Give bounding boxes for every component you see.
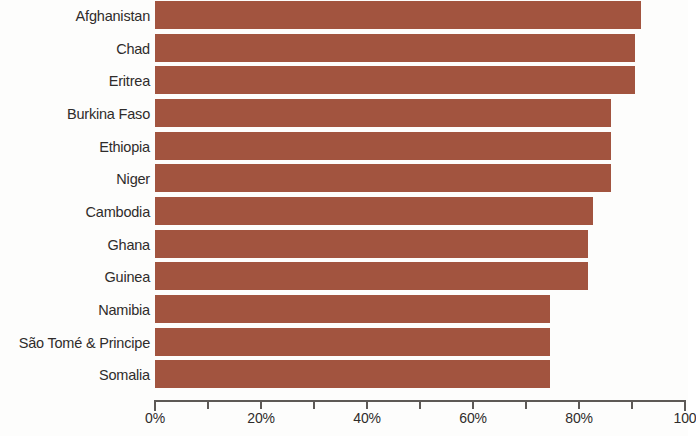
bar [155, 197, 593, 225]
bar-track [155, 164, 611, 192]
bar-row: Namibia [0, 294, 688, 327]
category-label: Eritrea [0, 74, 150, 89]
category-label: Ethiopia [0, 140, 150, 155]
bar-row: Guinea [0, 261, 688, 294]
x-axis-tick [631, 400, 633, 409]
x-axis-tick [260, 400, 262, 409]
x-axis-tick-label: 100 [674, 411, 696, 425]
bar-row: São Tomé & Principe [0, 327, 688, 360]
x-axis-tick-label: 80% [565, 411, 592, 425]
bar [155, 295, 550, 323]
x-axis-tick [525, 400, 527, 409]
bar-row: Cambodia [0, 196, 688, 229]
bar [155, 99, 611, 127]
bar-row: Burkina Faso [0, 98, 688, 131]
bar-row: Niger [0, 163, 688, 196]
bar-track [155, 230, 588, 258]
bar-row: Chad [0, 33, 688, 66]
bar [155, 1, 641, 29]
category-label: Guinea [0, 270, 150, 285]
x-axis-tick [578, 400, 580, 409]
x-axis-tick [207, 400, 209, 409]
bar-row: Eritrea [0, 65, 688, 98]
x-axis-tick-label: 20% [247, 411, 274, 425]
category-label: Afghanistan [0, 9, 150, 24]
bar-track [155, 99, 611, 127]
bar-track [155, 66, 635, 94]
x-axis-tick [419, 400, 421, 409]
x-axis-tick [472, 400, 474, 409]
category-label: Ghana [0, 238, 150, 253]
bar [155, 230, 588, 258]
bar-row: Ghana [0, 229, 688, 262]
x-axis-tick-label: 0% [145, 411, 165, 425]
bar-row: Somalia [0, 359, 688, 392]
bar-track [155, 34, 635, 62]
bar-track [155, 328, 550, 356]
bar-track [155, 295, 550, 323]
bar-row: Afghanistan [0, 0, 688, 33]
category-label: Namibia [0, 303, 150, 318]
bar [155, 328, 550, 356]
bar [155, 66, 635, 94]
x-axis: 0%20%40%60%80%100 [0, 394, 688, 436]
bar-track [155, 197, 593, 225]
bar-row: Ethiopia [0, 131, 688, 164]
x-axis-tick-label: 60% [459, 411, 486, 425]
x-axis-tick [366, 400, 368, 409]
bar [155, 132, 611, 160]
category-label: Chad [0, 42, 150, 57]
bar [155, 262, 588, 290]
category-label: Burkina Faso [0, 107, 150, 122]
bar-track [155, 262, 588, 290]
bar [155, 34, 635, 62]
bar [155, 360, 550, 388]
bar-track [155, 360, 550, 388]
x-axis-tick [313, 400, 315, 409]
category-label: Cambodia [0, 205, 150, 220]
bar [155, 164, 611, 192]
x-axis-tick-label: 40% [353, 411, 380, 425]
bar-track [155, 1, 641, 29]
category-label: São Tomé & Principe [0, 336, 150, 351]
category-label: Somalia [0, 368, 150, 383]
category-label: Niger [0, 172, 150, 187]
bar-track [155, 132, 611, 160]
plot-area: AfghanistanChadEritreaBurkina FasoEthiop… [0, 0, 688, 394]
